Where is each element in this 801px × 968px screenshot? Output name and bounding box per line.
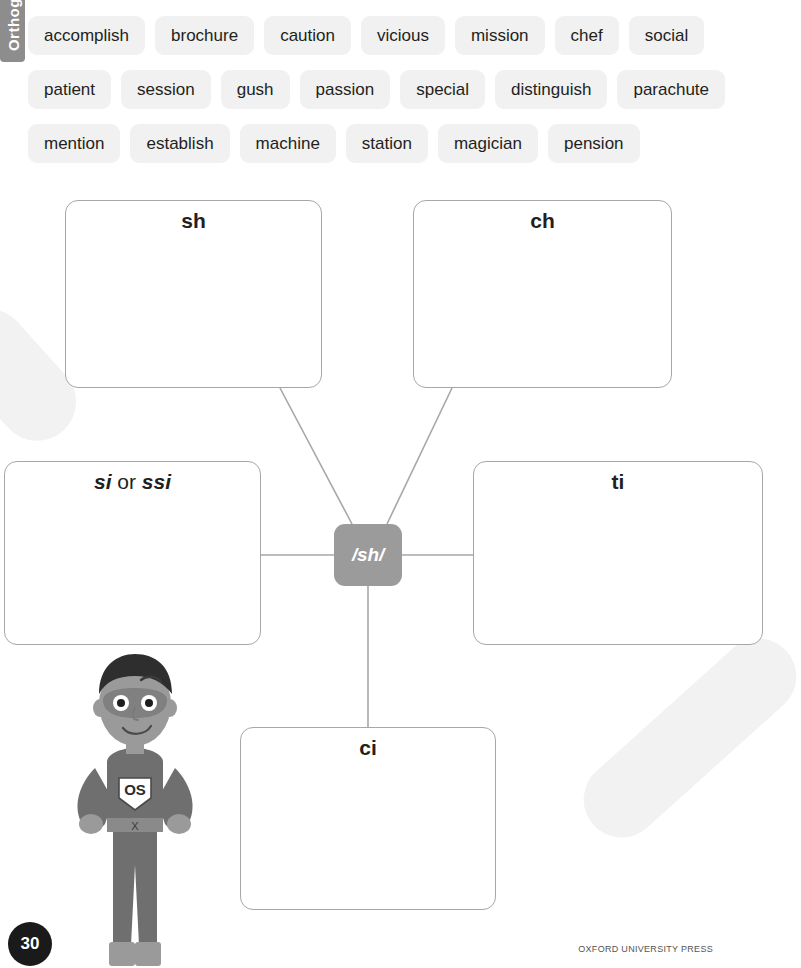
- mascot-mask: [103, 688, 167, 718]
- publisher-credit: OXFORD UNIVERSITY PRESS: [578, 944, 713, 954]
- mascot-emblem-text: OS: [124, 781, 146, 798]
- page-number-badge: 30: [8, 922, 52, 966]
- mascot-pupil-left: [117, 699, 125, 707]
- section-tab-label: Orthogra: [4, 0, 21, 51]
- mascot-legs: [113, 825, 157, 945]
- node-label-sh: sh: [66, 209, 321, 233]
- answer-box-ch[interactable]: ch: [413, 200, 672, 388]
- mascot-boot-left: [109, 942, 135, 966]
- node-label-si-or-ssi: si or ssi: [5, 470, 260, 494]
- answer-box-sh[interactable]: sh: [65, 200, 322, 388]
- node-label-si-conjunction: or: [111, 470, 141, 493]
- answer-box-ci[interactable]: ci: [240, 727, 496, 910]
- node-label-ch: ch: [414, 209, 671, 233]
- mascot-pupil-right: [145, 699, 153, 707]
- node-label-si-part1: si: [94, 470, 112, 493]
- diagram-hub-sh-sound: /sh/: [334, 524, 402, 586]
- mascot-belt-mark: X: [131, 820, 139, 832]
- answer-box-ti[interactable]: ti: [473, 461, 763, 645]
- hub-label: /sh/: [352, 544, 384, 566]
- superhero-mascot-illustration: X OS: [55, 650, 215, 968]
- mascot-hand-left: [79, 814, 103, 834]
- answer-box-si-or-ssi[interactable]: si or ssi: [4, 461, 261, 645]
- mascot-hand-right: [167, 814, 191, 834]
- node-label-ti: ti: [474, 470, 762, 494]
- node-label-ci: ci: [241, 736, 495, 760]
- node-label-si-part2: ssi: [142, 470, 171, 493]
- mascot-boot-right: [135, 942, 161, 966]
- section-tab: Orthogra: [0, 0, 25, 62]
